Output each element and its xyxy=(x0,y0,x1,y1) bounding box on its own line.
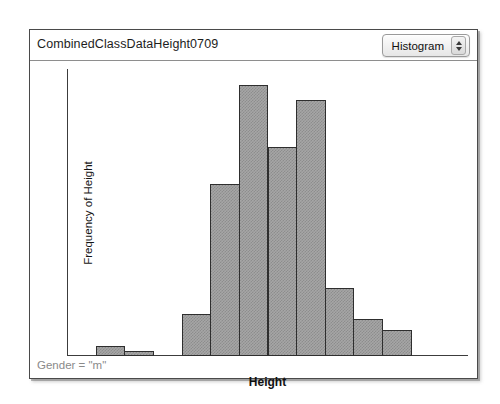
plot-area: 1020304050 14015016017018019020021 xyxy=(67,69,468,356)
plot-window: CombinedClassDataHeight0709 Histogram Fr… xyxy=(29,29,478,379)
histogram-bar xyxy=(239,85,269,356)
y-axis-line xyxy=(67,69,68,356)
histogram-bar xyxy=(296,100,326,356)
histogram-bar xyxy=(96,346,126,356)
histogram-bar xyxy=(124,351,154,356)
window-title: CombinedClassDataHeight0709 xyxy=(37,37,218,51)
window-titlebar: CombinedClassDataHeight0709 Histogram xyxy=(30,30,477,61)
histogram-bar xyxy=(353,319,383,356)
histogram-bar xyxy=(382,330,412,356)
footer-note: Gender = "m" xyxy=(37,359,106,371)
histogram-bar xyxy=(210,184,240,356)
plot-type-dropdown-label: Histogram xyxy=(392,40,451,52)
histogram-bar xyxy=(268,147,298,356)
triangle-up-icon xyxy=(456,41,462,45)
plot-type-dropdown[interactable]: Histogram xyxy=(382,34,470,57)
stepper-icon[interactable] xyxy=(451,36,466,55)
triangle-down-icon xyxy=(456,47,462,51)
screenshot-root: CombinedClassDataHeight0709 Histogram Fr… xyxy=(0,0,500,404)
plot-body: Frequency of Height 1020304050 140150160… xyxy=(30,61,477,378)
histogram-bar xyxy=(325,288,355,356)
x-axis-title: Height xyxy=(67,375,468,389)
histogram-bar xyxy=(182,314,212,356)
